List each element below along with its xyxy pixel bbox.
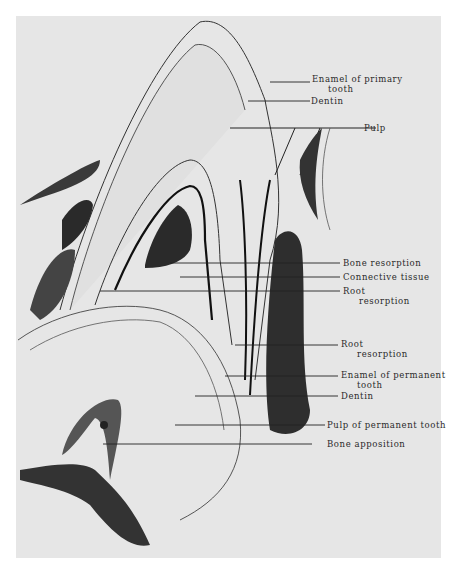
label-pulp-permanent: Pulp of permanent tooth [327,420,446,430]
label-text: Dentin [341,391,374,401]
label-text: Enamel of permanent [341,370,446,380]
label-root-resorption-2: Root resorption [341,339,408,359]
label-enamel-primary: Enamel of primary tooth [312,74,403,94]
label-pulp: Pulp [364,123,386,133]
label-enamel-permanent: Enamel of permanent tooth [341,370,446,390]
label-text: Connective tissue [343,272,430,282]
label-dentin-bottom: Dentin [341,391,374,401]
label-text: Pulp [364,123,386,133]
label-dentin-top: Dentin [311,96,344,106]
label-text-line2: tooth [341,380,446,390]
label-bone-apposition: Bone apposition [327,439,405,449]
label-bone-resorption: Bone resorption [343,258,421,268]
label-text: Enamel of primary [312,74,403,84]
label-text: Pulp of permanent tooth [327,420,446,430]
label-connective-tissue: Connective tissue [343,272,430,282]
label-text-line2: tooth [312,84,403,94]
label-text-line2: resorption [343,296,410,306]
label-text-line2: resorption [341,349,408,359]
label-text: Bone apposition [327,439,405,449]
label-text: Root [341,339,363,349]
label-root-resorption-1: Root resorption [343,286,410,306]
label-text: Dentin [311,96,344,106]
label-text: Root [343,286,365,296]
label-text: Bone resorption [343,258,421,268]
